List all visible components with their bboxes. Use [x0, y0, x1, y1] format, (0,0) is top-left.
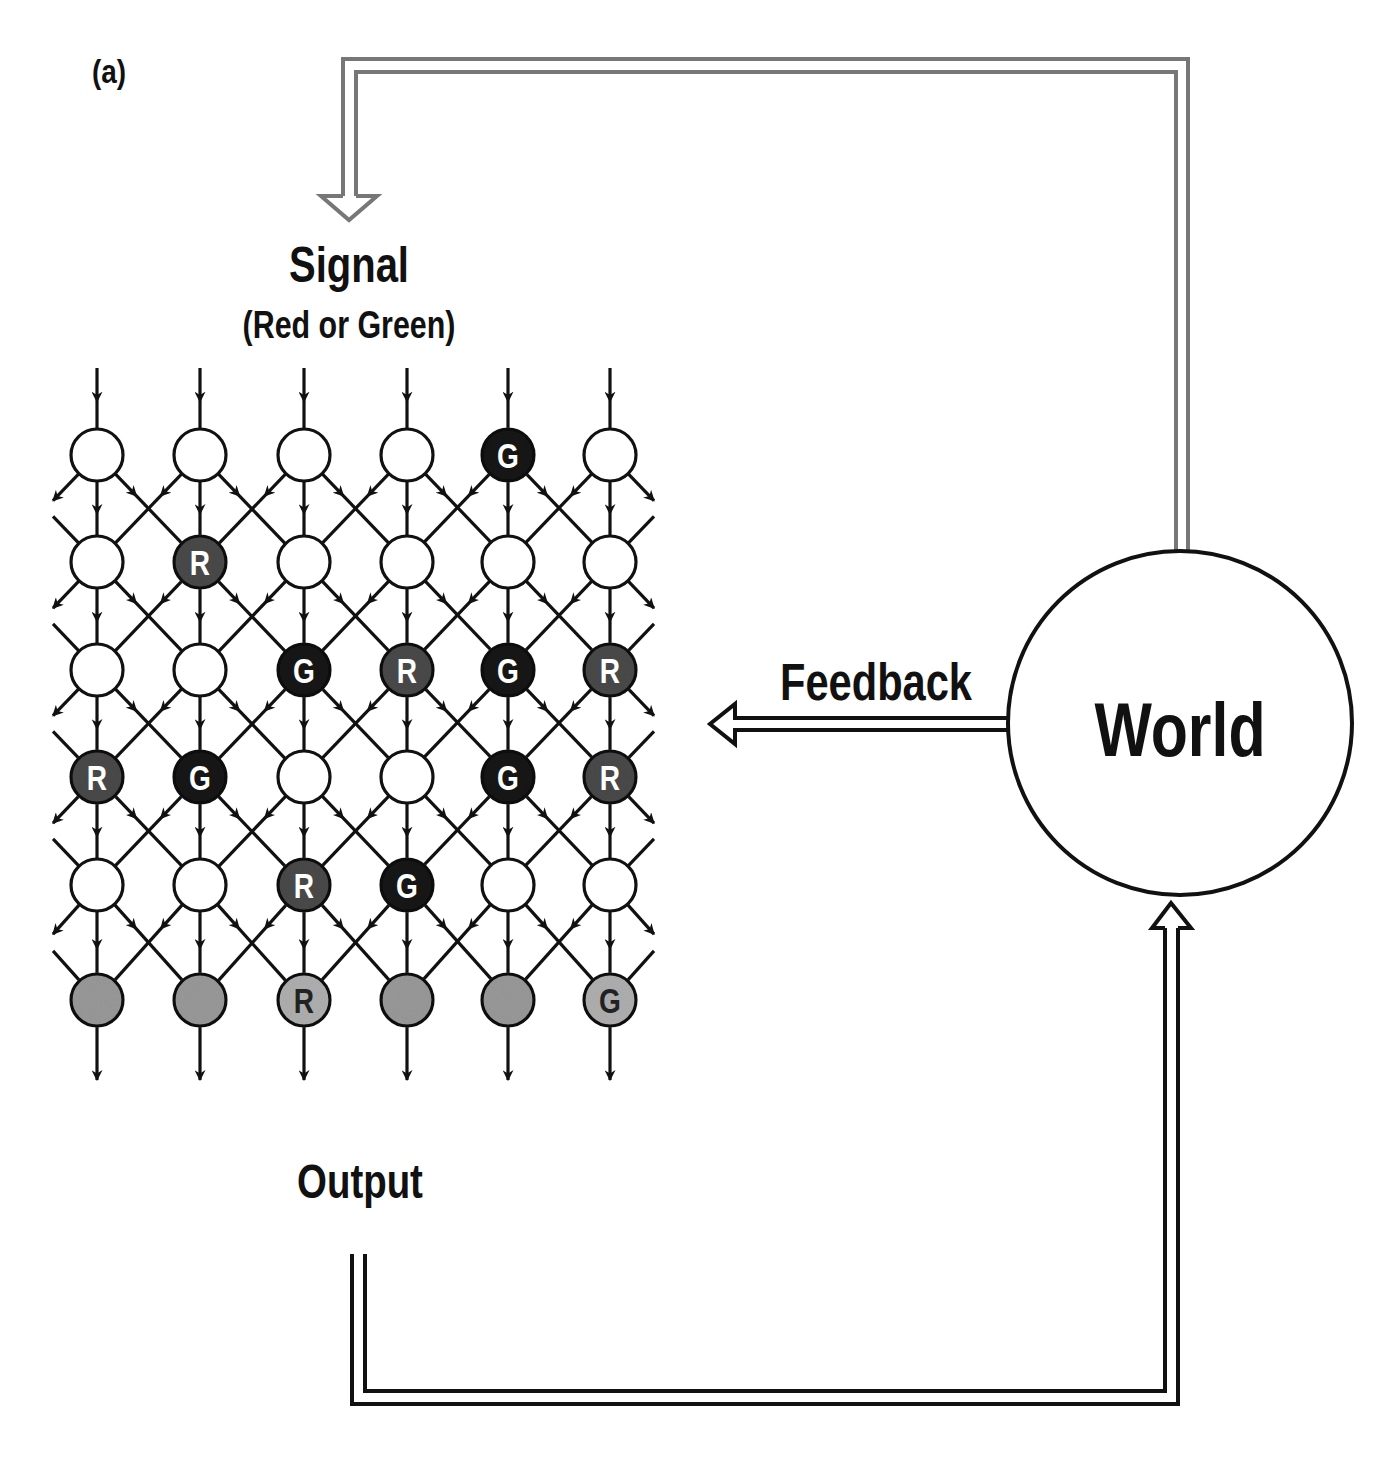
network-node — [71, 429, 123, 481]
node-state-label: G — [396, 866, 418, 906]
network-node — [584, 536, 636, 588]
network-node: G — [482, 429, 534, 481]
network-node — [71, 974, 123, 1026]
feedback-network-diagram: (a) Signal (Red or Green) GRGRGRRGGRRGRG… — [0, 0, 1398, 1459]
node-state-label: R — [600, 758, 620, 798]
network-node — [584, 859, 636, 911]
node-state-label: R — [87, 758, 107, 798]
node-state-label: G — [293, 651, 315, 691]
feedback-label: Feedback — [780, 653, 973, 712]
network-node — [174, 974, 226, 1026]
network-node — [482, 859, 534, 911]
network-node: G — [482, 644, 534, 696]
network-node — [278, 751, 330, 803]
network-node: G — [174, 751, 226, 803]
network-node: G — [482, 751, 534, 803]
network-node — [482, 536, 534, 588]
network-node — [278, 429, 330, 481]
node-state-label: G — [599, 981, 621, 1021]
network-node: R — [71, 751, 123, 803]
network-node: R — [584, 644, 636, 696]
network-node: R — [278, 859, 330, 911]
network-node: R — [584, 751, 636, 803]
network-node: R — [278, 974, 330, 1026]
signal-title: Signal — [289, 237, 409, 293]
network-node: G — [584, 974, 636, 1026]
network-node — [71, 644, 123, 696]
network-node — [482, 974, 534, 1026]
node-state-label: R — [294, 866, 314, 906]
node-state-label: R — [600, 651, 620, 691]
network-node — [278, 536, 330, 588]
node-state-label: G — [497, 651, 519, 691]
network-node — [71, 859, 123, 911]
network-node — [584, 429, 636, 481]
network-node: G — [381, 859, 433, 911]
network-node — [381, 974, 433, 1026]
network-node — [71, 536, 123, 588]
panel-label: (a) — [92, 52, 126, 90]
network-node — [174, 644, 226, 696]
network-node: R — [381, 644, 433, 696]
node-state-label: G — [497, 436, 519, 476]
network-node — [174, 429, 226, 481]
network-node: G — [278, 644, 330, 696]
world-label: World — [1094, 688, 1265, 773]
network-edges — [53, 368, 654, 1080]
output-label: Output — [297, 1155, 423, 1208]
node-state-label: R — [397, 651, 417, 691]
node-state-label: R — [190, 543, 210, 583]
network-node — [174, 859, 226, 911]
network-node — [381, 751, 433, 803]
output-path — [352, 903, 1191, 1404]
network-node: R — [174, 536, 226, 588]
node-state-label: G — [189, 758, 211, 798]
node-state-label: G — [497, 758, 519, 798]
network-node — [381, 429, 433, 481]
network-node — [381, 536, 433, 588]
node-state-label: R — [294, 981, 314, 1021]
signal-subtitle: (Red or Green) — [243, 304, 456, 346]
